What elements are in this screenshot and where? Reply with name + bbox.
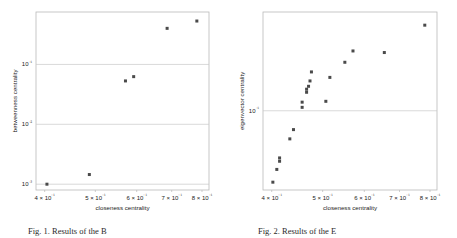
data-point	[124, 79, 127, 82]
x-tick-label: 5 × 10⁻¹	[313, 193, 334, 201]
plot-frame	[36, 12, 209, 190]
x-tick-label: 7 × 10⁻¹	[162, 193, 183, 201]
y-tick-label: 10⁻¹	[249, 106, 260, 114]
y-axis-ticks: 10⁻¹	[249, 106, 260, 114]
x-tick-label: 7 × 10⁻¹	[389, 193, 410, 201]
chart-panel-betweenness: 10⁻¹10⁻²10⁻³4 × 10⁻¹5 × 10⁻¹6 × 10⁻¹7 × …	[0, 0, 228, 238]
x-tick-label: 4 × 10⁻¹	[35, 193, 56, 201]
data-points	[271, 24, 426, 184]
y-tick-label: 10⁻³	[22, 180, 33, 188]
figure-pair: 10⁻¹10⁻²10⁻³4 × 10⁻¹5 × 10⁻¹6 × 10⁻¹7 × …	[0, 0, 457, 238]
chart-panel-eigenvector: 10⁻¹4 × 10⁻¹5 × 10⁻¹6 × 10⁻¹7 × 10⁻¹8 × …	[228, 0, 456, 238]
data-point	[324, 100, 327, 103]
data-point	[278, 160, 281, 163]
data-point	[271, 181, 274, 184]
data-points	[45, 20, 198, 186]
data-point	[45, 183, 48, 186]
plot-area: 10⁻¹10⁻²10⁻³4 × 10⁻¹5 × 10⁻¹6 × 10⁻¹7 × …	[11, 12, 213, 211]
x-axis-ticks: 4 × 10⁻¹5 × 10⁻¹6 × 10⁻¹7 × 10⁻¹8 × 10⁻¹	[262, 190, 441, 201]
data-point	[166, 27, 169, 30]
x-tick-label: 6 × 10⁻¹	[354, 193, 375, 201]
data-point	[328, 76, 331, 79]
data-point	[305, 91, 308, 94]
x-tick-label: 8 × 10⁻¹	[192, 193, 213, 201]
x-tick-label: 5 × 10⁻¹	[85, 193, 106, 201]
scatter-plot-eigenvector: 10⁻¹4 × 10⁻¹5 × 10⁻¹6 × 10⁻¹7 × 10⁻¹8 × …	[228, 0, 456, 238]
data-point	[423, 24, 426, 27]
data-point	[195, 20, 198, 23]
x-tick-label: 4 × 10⁻¹	[262, 193, 283, 201]
y-axis-ticks: 10⁻¹10⁻²10⁻³	[22, 60, 33, 187]
data-point	[301, 106, 304, 109]
y-axis-label: eigenvector centrality	[238, 71, 245, 130]
x-tick-label: 8 × 10⁻¹	[420, 193, 441, 201]
data-point	[288, 137, 291, 140]
grid-lines	[36, 64, 209, 184]
caption-row: Fig. 1. Results of the B Fig. 2. Results…	[0, 226, 457, 238]
x-axis-ticks: 4 × 10⁻¹5 × 10⁻¹6 × 10⁻¹7 × 10⁻¹8 × 10⁻¹	[35, 190, 213, 201]
figure-caption-right: Fig. 2. Results of the E	[258, 226, 336, 236]
y-tick-label: 10⁻²	[22, 120, 33, 128]
data-point	[88, 173, 91, 176]
data-point	[132, 75, 135, 78]
scatter-plot-betweenness: 10⁻¹10⁻²10⁻³4 × 10⁻¹5 × 10⁻¹6 × 10⁻¹7 × …	[0, 0, 228, 238]
plot-frame	[263, 12, 437, 190]
data-point	[307, 85, 310, 88]
x-axis-label: closeness centrality	[96, 204, 151, 211]
data-point	[351, 49, 354, 52]
figure-caption-left: Fig. 1. Results of the B	[28, 226, 107, 236]
plot-area: 10⁻¹4 × 10⁻¹5 × 10⁻¹6 × 10⁻¹7 × 10⁻¹8 × …	[238, 12, 441, 211]
data-point	[308, 79, 311, 82]
x-tick-label: 6 × 10⁻¹	[127, 193, 148, 201]
data-point	[301, 101, 304, 104]
data-point	[383, 51, 386, 54]
data-point	[343, 61, 346, 64]
data-point	[278, 156, 281, 159]
data-point	[305, 88, 308, 91]
y-axis-label: betweenness centrality	[11, 69, 18, 133]
x-axis-label: closeness centrality	[323, 204, 378, 211]
y-tick-label: 10⁻¹	[22, 60, 33, 68]
data-point	[310, 70, 313, 73]
data-point	[275, 168, 278, 171]
data-point	[292, 128, 295, 131]
